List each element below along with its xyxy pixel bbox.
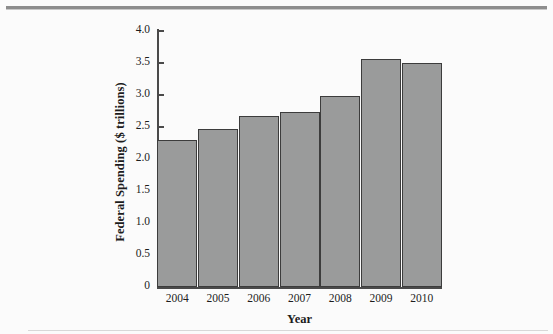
y-axis-tick-label: 2.5 [110, 119, 150, 131]
figure-page: Federal Spending ($ trillions) 00.51.01.… [0, 0, 553, 334]
y-axis-tick-label: 1.0 [110, 215, 150, 227]
bar [320, 96, 360, 287]
y-axis-tick [158, 30, 164, 31]
bar [402, 63, 442, 287]
y-axis-tick [158, 126, 164, 127]
y-axis-tick-label: 1.5 [110, 183, 150, 195]
plot-area: 00.51.01.52.02.53.03.54.0 [0, 12, 553, 330]
y-axis-tick-label: 4.0 [110, 23, 150, 35]
page-bottom-rule [28, 330, 548, 331]
y-axis-tick [158, 62, 164, 63]
y-axis-tick-label: 3.0 [110, 87, 150, 99]
page-top-rule-shadow [6, 9, 547, 10]
bar [239, 116, 279, 287]
x-axis-title: Year [157, 312, 442, 327]
y-axis-tick [158, 94, 164, 95]
bar [361, 59, 401, 287]
y-axis-tick-label: 0.5 [110, 247, 150, 259]
x-axis-tick-label: 2010 [394, 292, 450, 304]
y-axis-tick-label: 2.0 [110, 151, 150, 163]
y-axis-tick-label: 0 [110, 279, 150, 291]
bar-chart-figure: Federal Spending ($ trillions) 00.51.01.… [0, 12, 553, 330]
bar [157, 140, 197, 287]
y-axis-tick-label: 3.5 [110, 55, 150, 67]
bar [198, 129, 238, 287]
x-axis-line [157, 287, 442, 289]
bar [280, 112, 320, 287]
